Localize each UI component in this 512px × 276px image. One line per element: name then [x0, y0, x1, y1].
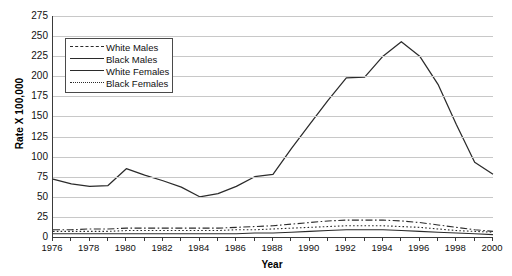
- x-tickmark: [400, 237, 401, 241]
- legend-swatch-icon: [69, 42, 105, 52]
- y-tick-label: 250: [4, 31, 48, 41]
- x-tick-label: 1978: [69, 242, 109, 253]
- y-tick-label: 25: [4, 212, 48, 222]
- legend-swatch-icon: [69, 66, 105, 76]
- x-axis-tick-labels: 1976197819801982198419861988199019921994…: [52, 237, 492, 259]
- x-tickmark: [89, 237, 90, 241]
- y-tick-label: 175: [4, 91, 48, 101]
- x-tickmark: [474, 237, 475, 241]
- x-tickmark: [217, 237, 218, 241]
- legend-label: Black Males: [105, 54, 157, 65]
- x-tickmark: [327, 237, 328, 241]
- x-tickmark: [254, 237, 255, 241]
- x-tickmark: [52, 237, 53, 241]
- x-tickmark: [364, 237, 365, 241]
- gridline: [53, 177, 493, 178]
- y-tick-label: 125: [4, 132, 48, 142]
- x-tickmark: [125, 237, 126, 241]
- x-tickmark: [272, 237, 273, 241]
- x-tickmark: [180, 237, 181, 241]
- gridline: [53, 16, 493, 17]
- legend-label: White Males: [105, 42, 158, 53]
- gridline: [53, 217, 493, 218]
- x-tick-label: 1984: [179, 242, 219, 253]
- x-tick-label: 1988: [252, 242, 292, 253]
- gridline: [53, 116, 493, 117]
- y-tick-label: 150: [4, 111, 48, 121]
- x-tickmark: [382, 237, 383, 241]
- x-tickmark: [309, 237, 310, 241]
- x-tickmark: [437, 237, 438, 241]
- legend-item-white-males[interactable]: White Males: [69, 41, 169, 53]
- gridline: [53, 197, 493, 198]
- chart-container: Rate X 100,000 0255075100125150175200225…: [0, 0, 512, 276]
- gridline: [53, 157, 493, 158]
- y-tick-label: 225: [4, 51, 48, 61]
- gridline: [53, 36, 493, 37]
- legend-label: Black Females: [105, 78, 168, 89]
- x-tick-label: 1992: [325, 242, 365, 253]
- x-tickmark: [492, 237, 493, 241]
- legend-swatch-icon: [69, 78, 105, 88]
- gridline: [53, 96, 493, 97]
- legend-item-white-females[interactable]: White Females: [69, 65, 169, 77]
- x-tick-label: 2000: [472, 242, 512, 253]
- x-tick-label: 1986: [215, 242, 255, 253]
- x-tickmark: [345, 237, 346, 241]
- legend-label: White Females: [105, 66, 169, 77]
- x-tickmark: [70, 237, 71, 241]
- x-tickmark: [290, 237, 291, 241]
- x-tick-label: 1982: [142, 242, 182, 253]
- x-tickmark: [144, 237, 145, 241]
- y-tick-label: 100: [4, 152, 48, 162]
- x-tick-label: 1998: [435, 242, 475, 253]
- x-axis-title: Year: [52, 259, 492, 270]
- x-tickmark: [162, 237, 163, 241]
- y-tick-label: 200: [4, 71, 48, 81]
- x-tickmark: [235, 237, 236, 241]
- gridline: [53, 137, 493, 138]
- x-tickmark: [107, 237, 108, 241]
- chart-legend: White MalesBlack MalesWhite FemalesBlack…: [65, 38, 173, 93]
- y-tick-label: 50: [4, 192, 48, 202]
- x-tick-label: 1996: [399, 242, 439, 253]
- y-tick-label: 275: [4, 11, 48, 21]
- x-tickmark: [419, 237, 420, 241]
- legend-item-black-females[interactable]: Black Females: [69, 77, 169, 89]
- series-line-white-males: [53, 220, 493, 231]
- y-axis-tick-labels: 0255075100125150175200225250275: [0, 0, 48, 276]
- x-tickmark: [455, 237, 456, 241]
- legend-item-black-males[interactable]: Black Males: [69, 53, 169, 65]
- x-tick-label: 1990: [289, 242, 329, 253]
- x-tick-label: 1980: [105, 242, 145, 253]
- x-tick-label: 1994: [362, 242, 402, 253]
- y-tick-label: 75: [4, 172, 48, 182]
- legend-swatch-icon: [69, 54, 105, 64]
- x-tickmark: [199, 237, 200, 241]
- x-tick-label: 1976: [32, 242, 72, 253]
- y-tick-label: 0: [4, 232, 48, 242]
